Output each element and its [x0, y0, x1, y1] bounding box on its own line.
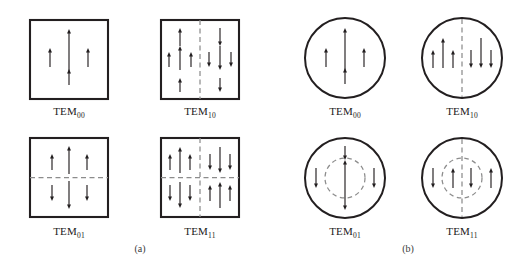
figure-root: TEM00TEM10TEM01TEM11TEM00TEM10TEM01TEM11…	[0, 0, 524, 266]
panel-captions-layer: (a)(b)	[134, 243, 413, 255]
mode-label-main: TEM	[53, 225, 77, 237]
mode-label-ci-tem10: TEM10	[446, 105, 478, 120]
mode-label-sq-tem11: TEM11	[184, 225, 215, 240]
mode-label-subscript: 01	[353, 231, 361, 240]
mode-label-ci-tem00: TEM00	[329, 105, 361, 120]
panel-caption-panel-b: (b)	[402, 243, 414, 255]
mode-label-sq-tem01: TEM01	[53, 225, 85, 240]
mode-label-main: TEM	[329, 225, 353, 237]
mode-label-subscript: 11	[470, 231, 478, 240]
mode-label-subscript: 00	[353, 111, 361, 120]
mode-label-main: TEM	[446, 105, 470, 117]
mode-labels-layer: TEM00TEM10TEM01TEM11TEM00TEM10TEM01TEM11	[53, 105, 478, 240]
mode-label-main: TEM	[53, 105, 77, 117]
tem-mode-figure: TEM00TEM10TEM01TEM11TEM00TEM10TEM01TEM11…	[0, 0, 524, 266]
mode-label-subscript: 10	[470, 111, 478, 120]
aperture-shapes-layer	[30, 18, 502, 218]
mode-label-ci-tem01: TEM01	[329, 225, 361, 240]
mode-label-ci-tem11: TEM11	[446, 225, 477, 240]
mode-label-sq-tem10: TEM10	[184, 105, 216, 120]
mode-label-main: TEM	[446, 225, 470, 237]
mode-label-subscript: 01	[77, 231, 85, 240]
mode-label-sq-tem00: TEM00	[53, 105, 85, 120]
mode-label-subscript: 00	[77, 111, 85, 120]
mode-label-main: TEM	[184, 225, 208, 237]
panel-caption-panel-a: (a)	[134, 243, 145, 255]
mode-label-main: TEM	[329, 105, 353, 117]
mode-label-main: TEM	[184, 105, 208, 117]
mode-label-subscript: 10	[208, 111, 216, 120]
mode-label-subscript: 11	[208, 231, 216, 240]
